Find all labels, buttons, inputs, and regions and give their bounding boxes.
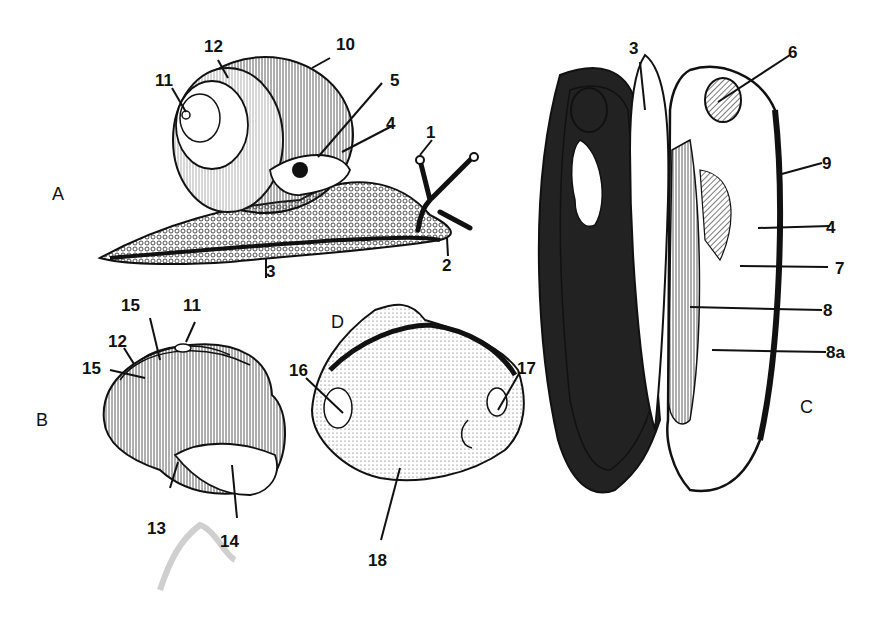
label-d-16: 16 (289, 362, 308, 379)
label-c-4: 4 (826, 219, 835, 236)
label-c-9: 9 (822, 155, 831, 172)
label-d-17: 17 (517, 360, 536, 377)
label-a-10: 10 (336, 36, 355, 53)
label-c-7: 7 (835, 260, 844, 277)
label-c-8: 8 (823, 302, 832, 319)
snail-shell-drawing (104, 344, 285, 495)
label-b-12: 12 (108, 333, 127, 350)
opened-bivalve-drawing (539, 55, 780, 493)
label-c-3: 3 (629, 40, 638, 57)
label-a-11: 11 (155, 72, 173, 89)
label-a-4: 4 (386, 115, 395, 132)
panel-label-c: C (800, 398, 813, 416)
label-b-15-top: 15 (121, 297, 140, 314)
label-b-13: 13 (147, 520, 166, 537)
label-a-5: 5 (390, 72, 399, 89)
label-b-14: 14 (220, 533, 239, 550)
panel-label-a: A (52, 185, 64, 203)
label-d-18: 18 (368, 552, 387, 569)
label-b-11: 11 (183, 297, 201, 314)
label-c-6: 6 (788, 44, 797, 61)
panel-label-d: D (331, 313, 344, 331)
label-a-3: 3 (266, 263, 275, 280)
label-a-12: 12 (204, 38, 223, 55)
label-b-15-side: 15 (82, 360, 101, 377)
label-a-2: 2 (442, 257, 451, 274)
label-a-1: 1 (426, 124, 435, 141)
label-c-8a: 8a (826, 344, 845, 361)
panel-label-b: B (36, 411, 48, 429)
